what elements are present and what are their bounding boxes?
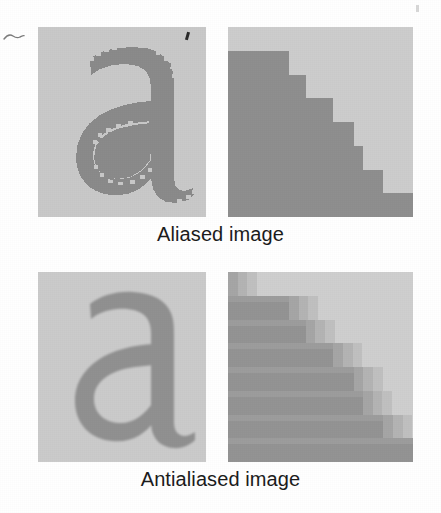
panel-row-aliased: Aliased image xyxy=(0,0,441,191)
staircase-step xyxy=(228,391,413,415)
staircase-step-fill xyxy=(228,170,383,194)
staircase-edge-band xyxy=(393,415,403,439)
staircase-edge-band xyxy=(325,320,335,344)
antialiased-staircase xyxy=(228,272,413,462)
caption-antialiased: Antialiased image xyxy=(0,466,441,492)
aliased-glyph-stage xyxy=(38,27,206,217)
staircase-step-fill xyxy=(228,146,363,170)
figure-block-aliased: Aliased image xyxy=(0,0,441,191)
caption-aliased: Aliased image xyxy=(0,221,441,247)
aliased-stairs-panel xyxy=(228,27,413,217)
staircase-edge-band xyxy=(308,296,318,320)
staircase-step xyxy=(228,193,413,217)
aliased-staircase xyxy=(228,27,413,217)
staircase-step xyxy=(228,438,413,462)
panel-row-antialiased: Antialiased image xyxy=(0,245,441,436)
staircase-step xyxy=(228,415,413,439)
staircase-step-fill xyxy=(228,75,306,99)
pencil-squiggle-icon xyxy=(3,31,25,43)
scan-fleck xyxy=(416,5,419,12)
staircase-step xyxy=(228,51,413,75)
staircase-row-seam xyxy=(228,438,413,444)
antialiased-stairs-panel xyxy=(228,272,413,462)
figure-block-antialiased: Antialiased image xyxy=(0,245,441,436)
staircase-row-seam xyxy=(228,343,343,349)
staircase-row-seam xyxy=(228,415,393,421)
staircase-step xyxy=(228,170,413,194)
staircase-step xyxy=(228,146,413,170)
staircase-step-fill xyxy=(228,98,333,122)
staircase-edge-band xyxy=(353,343,363,367)
staircase-row-seam xyxy=(228,272,238,278)
staircase-row-seam xyxy=(228,320,315,326)
letter-a-antialiased-icon xyxy=(38,272,206,462)
staircase-step-fill xyxy=(228,193,413,217)
staircase-step xyxy=(228,98,413,122)
staircase-step xyxy=(228,343,413,367)
aliased-letter-panel xyxy=(38,27,206,217)
staircase-step xyxy=(228,27,413,51)
staircase-edge-band xyxy=(373,391,383,415)
staircase-step xyxy=(228,75,413,99)
staircase-step xyxy=(228,367,413,391)
staircase-step xyxy=(228,296,413,320)
staircase-edge-band xyxy=(363,367,373,391)
letter-a-aliased-icon xyxy=(38,27,206,217)
staircase-step xyxy=(228,272,413,296)
staircase-row-seam xyxy=(228,296,299,302)
staircase-edge-band xyxy=(373,367,383,391)
staircase-edge-band xyxy=(238,272,248,296)
antialiased-glyph-stage xyxy=(38,272,206,462)
staircase-step xyxy=(228,320,413,344)
staircase-row-seam xyxy=(228,391,373,397)
staircase-row-seam xyxy=(228,367,363,373)
staircase-step xyxy=(228,122,413,146)
staircase-step-fill xyxy=(228,122,354,146)
staircase-edge-band xyxy=(382,391,392,415)
staircase-edge-band xyxy=(403,415,413,439)
staircase-edge-band xyxy=(299,296,309,320)
staircase-edge-band xyxy=(315,320,325,344)
staircase-edge-band xyxy=(343,343,353,367)
staircase-step-fill xyxy=(228,51,289,75)
antialiased-letter-panel xyxy=(38,272,206,462)
staircase-edge-band xyxy=(247,272,257,296)
